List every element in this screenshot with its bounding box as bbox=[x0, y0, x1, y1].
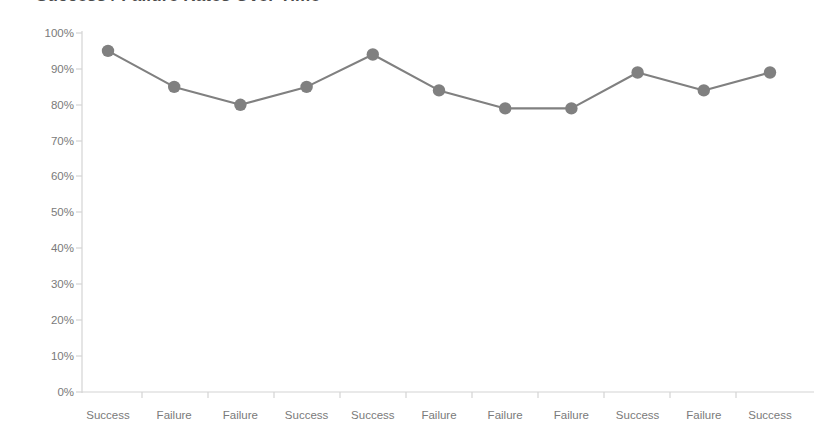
data-point[interactable] bbox=[433, 84, 445, 96]
data-point[interactable] bbox=[102, 45, 114, 57]
x-axis bbox=[82, 392, 814, 398]
y-axis bbox=[76, 31, 82, 393]
x-tick-label: Failure bbox=[686, 408, 721, 422]
x-tick-label: Success bbox=[285, 408, 328, 422]
plot-area bbox=[0, 0, 828, 442]
data-point[interactable] bbox=[234, 99, 246, 111]
y-axis-ticks bbox=[76, 33, 82, 392]
data-point[interactable] bbox=[698, 84, 710, 96]
data-point[interactable] bbox=[168, 81, 180, 93]
x-tick-label: Success bbox=[351, 408, 394, 422]
x-tick-label: Failure bbox=[488, 408, 523, 422]
data-point[interactable] bbox=[764, 66, 776, 78]
x-tick-label: Success bbox=[748, 408, 791, 422]
x-tick-label: Failure bbox=[223, 408, 258, 422]
data-point[interactable] bbox=[367, 48, 379, 60]
data-series-markers bbox=[102, 45, 776, 115]
data-point[interactable] bbox=[565, 102, 577, 114]
x-tick-label: Failure bbox=[157, 408, 192, 422]
line-chart: Success / Failure Rates Over Time 100% 9… bbox=[0, 0, 828, 442]
data-point[interactable] bbox=[499, 102, 511, 114]
data-point[interactable] bbox=[300, 81, 312, 93]
data-point[interactable] bbox=[631, 66, 643, 78]
x-tick-label: Failure bbox=[554, 408, 589, 422]
x-tick-label: Failure bbox=[421, 408, 456, 422]
data-series-line bbox=[108, 51, 770, 109]
x-tick-label: Success bbox=[86, 408, 129, 422]
x-tick-label: Success bbox=[616, 408, 659, 422]
x-axis-ticks bbox=[142, 392, 736, 398]
